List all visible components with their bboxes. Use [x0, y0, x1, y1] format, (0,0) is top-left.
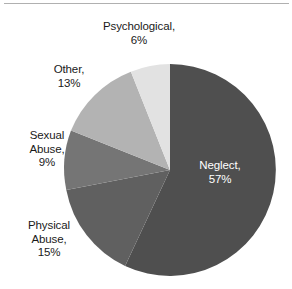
pie-label-neglect: Neglect, 57% — [183, 159, 257, 186]
pie-label-sexual-abuse: Sexual Abuse, 9% — [8, 129, 86, 170]
pie-label-psychological: Psychological, 6% — [79, 20, 199, 47]
pie-label-neglect-value: 57% — [183, 173, 257, 187]
pie-label-physical-abuse: Physical Abuse, 15% — [8, 219, 90, 260]
pie-label-sexual-abuse-name-2: Abuse, — [8, 143, 86, 157]
pie-label-other: Other, 13% — [30, 63, 108, 90]
pie-label-sexual-abuse-value: 9% — [8, 156, 86, 170]
pie-label-physical-abuse-value: 15% — [8, 246, 90, 260]
pie-chart-figure: Psychological, 6% Other, 13% Sexual Abus… — [0, 0, 292, 289]
pie-label-other-value: 13% — [30, 77, 108, 91]
pie-label-psychological-value: 6% — [79, 34, 199, 48]
pie-label-physical-abuse-name-1: Physical — [8, 219, 90, 233]
pie-label-other-name: Other, — [30, 63, 108, 77]
pie-label-physical-abuse-name-2: Abuse, — [8, 233, 90, 247]
pie-label-sexual-abuse-name-1: Sexual — [8, 129, 86, 143]
pie-label-neglect-name: Neglect, — [183, 159, 257, 173]
pie-label-psychological-name: Psychological, — [79, 20, 199, 34]
